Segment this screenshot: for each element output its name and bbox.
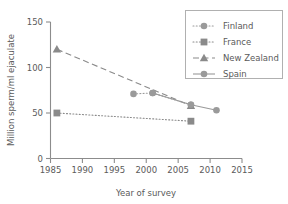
data-point-marker bbox=[130, 91, 137, 98]
x-tick-label: 1990 bbox=[72, 165, 94, 175]
legend: FinlandFranceNew ZealandSpain bbox=[186, 11, 283, 80]
chart-container: 050100150 1985199019952000200520102015 Y… bbox=[0, 0, 288, 204]
data-point-marker bbox=[188, 102, 195, 109]
x-tick-label: 2015 bbox=[231, 165, 253, 175]
legend-label: Spain bbox=[223, 69, 247, 79]
x-tick-label: 1995 bbox=[104, 165, 126, 175]
data-point-marker bbox=[53, 110, 60, 117]
legend-marker-icon bbox=[201, 39, 208, 46]
legend-label: Finland bbox=[223, 21, 253, 31]
y-tick-label: 150 bbox=[27, 17, 43, 27]
x-axis-title: Year of survey bbox=[115, 188, 176, 198]
legend-marker-icon bbox=[201, 23, 208, 30]
y-tick-label: 50 bbox=[32, 108, 43, 118]
y-tick-label: 0 bbox=[38, 154, 43, 164]
data-point-marker bbox=[149, 90, 156, 97]
data-point-marker bbox=[213, 107, 220, 114]
legend-label: New Zealand bbox=[223, 53, 279, 63]
y-axis-title: Million sperm/ml ejaculate bbox=[6, 34, 16, 146]
y-tick-label: 100 bbox=[27, 63, 43, 73]
x-tick-label: 2000 bbox=[135, 165, 157, 175]
legend-marker-icon bbox=[201, 71, 208, 78]
x-tick-label: 2005 bbox=[167, 165, 189, 175]
legend-label: France bbox=[223, 37, 251, 47]
sperm-count-trend-chart: 050100150 1985199019952000200520102015 Y… bbox=[0, 0, 288, 204]
data-point-marker bbox=[188, 118, 195, 125]
x-tick-label: 1985 bbox=[40, 165, 62, 175]
x-tick-label: 2010 bbox=[199, 165, 221, 175]
